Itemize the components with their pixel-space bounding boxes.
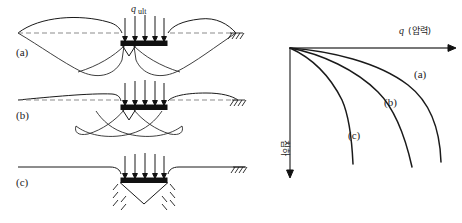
shear-plane-dashes-right-c [162, 184, 175, 210]
shear-plane-dashes-left-c [113, 184, 126, 210]
diagram-label-c: (c) [16, 176, 29, 189]
diagram-a-general-shear: q ult (a) [16, 3, 244, 76]
slip-surface-right-a [134, 33, 236, 76]
ground-surface-left-c [18, 167, 121, 174]
footing-c [121, 178, 167, 183]
ground-hatch-a [228, 33, 244, 39]
heave-surface-left-a [18, 17, 122, 33]
curve-label-b: (b) [384, 96, 397, 109]
x-axis-label-symbol: q [399, 25, 404, 36]
load-arrows-b [123, 80, 167, 106]
heave-surface-right-a [168, 19, 236, 33]
footing-b [121, 105, 167, 110]
ground-surface-right-c [168, 167, 245, 174]
x-axis-arrowhead [448, 45, 456, 52]
load-settlement-chart: q (압력) 침하 (a) (b) (c) [280, 25, 456, 178]
x-axis-label-text: (압력) [408, 25, 431, 36]
curve-c [290, 48, 353, 164]
curve-label-c: (c) [348, 129, 361, 142]
footing-a [121, 41, 167, 46]
load-label-subscript-a: ult [138, 7, 147, 16]
ground-hatch-b [230, 100, 246, 106]
diagram-label-b: (b) [16, 109, 29, 122]
slip-surface-left-a [18, 33, 124, 76]
diagram-c-punching-shear: (c) [16, 153, 247, 210]
active-wedge-b [122, 109, 136, 120]
bearing-capacity-figure: q ult (a) [0, 0, 462, 223]
curve-a [290, 48, 441, 162]
ground-hatch-c [231, 167, 247, 173]
y-axis-label-text: 침하 [280, 140, 290, 157]
punching-wedge-c [120, 183, 168, 205]
diagram-b-local-shear: (b) [16, 80, 246, 136]
diagram-label-a: (a) [16, 46, 29, 59]
load-arrows-c [123, 153, 167, 179]
curve-label-a: (a) [414, 68, 427, 81]
load-arrows-a [123, 15, 167, 42]
load-label-a: q [131, 3, 136, 14]
y-axis-arrowhead [287, 170, 294, 178]
